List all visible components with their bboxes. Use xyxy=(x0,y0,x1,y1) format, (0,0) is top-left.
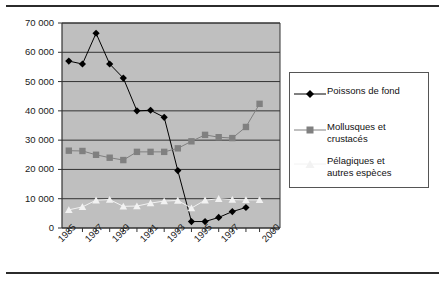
figure: 010 00020 00030 00040 00050 00060 00070 … xyxy=(0,0,445,284)
legend-label-0: Poissons de fond xyxy=(327,85,400,97)
chart-legend: Poissons de fond Mollusques et crustacés xyxy=(289,72,429,188)
y-tick-label: 10 000 xyxy=(0,194,54,204)
y-tick-label: 60 000 xyxy=(0,47,54,57)
legend-item-pelagiques-et-autres-especes: Pélagiques et autres espèces xyxy=(290,155,430,179)
square-marker-icon xyxy=(293,122,327,134)
legend-item-mollusques-et-crustaces: Mollusques et crustacés xyxy=(290,121,430,145)
legend-label-1: Mollusques et crustacés xyxy=(327,121,386,145)
y-tick-label: 50 000 xyxy=(0,77,54,87)
y-tick-label: 20 000 xyxy=(0,164,54,174)
chart-area: 010 00020 00030 00040 00050 00060 00070 … xyxy=(0,10,445,268)
y-tick-label: 0 xyxy=(0,223,54,233)
y-tick-label: 40 000 xyxy=(0,106,54,116)
legend-item-poissons-de-fond: Poissons de fond xyxy=(290,85,430,98)
triangle-marker-icon xyxy=(293,156,327,168)
top-rule xyxy=(6,5,439,7)
bottom-rule xyxy=(6,272,439,274)
y-tick-label: 70 000 xyxy=(0,18,54,28)
y-tick-label: 30 000 xyxy=(0,135,54,145)
legend-label-2: Pélagiques et autres espèces xyxy=(327,155,391,179)
diamond-marker-icon xyxy=(293,86,327,98)
